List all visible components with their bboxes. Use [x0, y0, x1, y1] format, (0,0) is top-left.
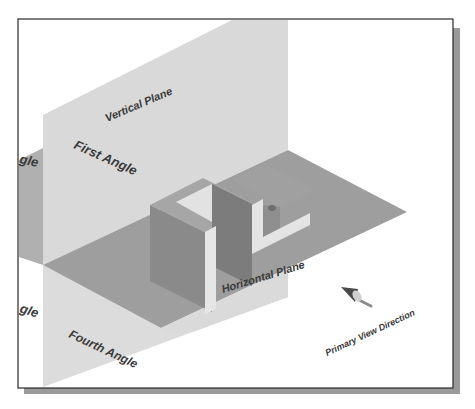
- block-hole: [268, 205, 276, 211]
- diagram-canvas: Vertical Plane First Angle gle Horizonta…: [0, 0, 475, 409]
- block-pillar-face: [205, 226, 216, 314]
- projection-diagram: Vertical Plane First Angle gle Horizonta…: [0, 0, 475, 409]
- lower-left-space: [19, 257, 43, 387]
